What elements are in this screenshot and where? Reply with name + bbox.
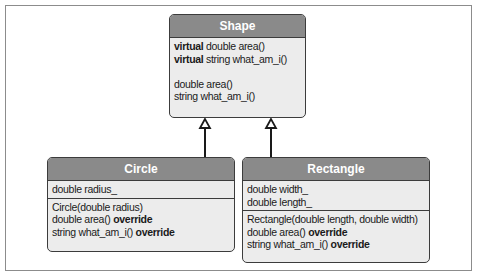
- circle-method: Circle(double radius): [52, 201, 230, 214]
- class-rectangle: Rectangle double width_ double length_ R…: [242, 157, 430, 263]
- rectangle-attribute: double width_: [247, 183, 425, 196]
- shape-method: double area(): [174, 78, 301, 91]
- rectangle-method: string what_am_i() override: [247, 238, 425, 251]
- class-rectangle-methods: Rectangle(double length, double width) d…: [243, 211, 429, 253]
- circle-method: string what_am_i() override: [52, 226, 230, 239]
- class-shape: Shape virtual double area() virtual stri…: [169, 14, 306, 118]
- class-shape-title: Shape: [170, 15, 305, 38]
- rectangle-inherits-arrow: [266, 119, 276, 157]
- shape-virtual-method: virtual double area(): [174, 40, 301, 53]
- class-circle-methods: Circle(double radius) double area() over…: [48, 199, 234, 241]
- shape-method: string what_am_i(): [174, 90, 301, 103]
- shape-virtual-method: virtual string what_am_i(): [174, 53, 301, 66]
- rectangle-method: Rectangle(double length, double width): [247, 213, 425, 226]
- rectangle-attribute: double length_: [247, 196, 425, 209]
- class-rectangle-title: Rectangle: [243, 158, 429, 181]
- circle-inherits-arrow: [200, 119, 210, 157]
- rectangle-method: double area() override: [247, 226, 425, 239]
- class-circle-attributes: double radius_: [48, 181, 234, 199]
- class-shape-members: virtual double area() virtual string wha…: [170, 38, 305, 105]
- hollow-triangle-icon: [266, 119, 276, 128]
- hollow-triangle-icon: [200, 119, 210, 128]
- circle-attribute: double radius_: [52, 183, 230, 196]
- class-circle-title: Circle: [48, 158, 234, 181]
- class-circle: Circle double radius_ Circle(double radi…: [47, 157, 235, 252]
- circle-method: double area() override: [52, 213, 230, 226]
- class-rectangle-attributes: double width_ double length_: [243, 181, 429, 211]
